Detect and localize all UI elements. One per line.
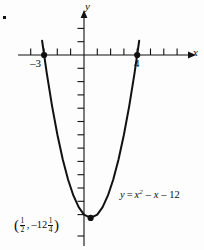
vertex-open-paren: ( [14,218,19,233]
equation-label: y=x2– x– 12 [120,190,180,201]
vertex-comma: , [27,220,30,231]
y-axis-ticks-positive [78,28,85,41]
equation-exponent: 2 [139,188,143,196]
equation-equals: = [127,189,133,200]
parabola-figure: x y –3 4 y=x2– x– 12 ( 1 2 , –12 1 4 ) [0,0,204,250]
y-axis-label: y [85,1,90,12]
vertex-close-paren: ) [54,218,59,233]
equation-term-minus-12: – 12 [161,189,179,200]
vertex-point [88,215,94,221]
x-axis-ticks [31,49,177,56]
equation-term-minus-x: – x [146,189,159,200]
plot-canvas [0,0,204,250]
equation-lhs: y [120,189,125,200]
root-label-right: 4 [134,58,140,69]
x-axis-label: x [193,47,198,58]
vertex-x-numerator: 1 [20,217,26,225]
vertex-y-fraction: 1 4 [48,217,54,234]
vertex-y-numerator: 1 [48,217,54,225]
vertex-x-denominator: 2 [20,225,26,234]
vertex-y-denominator: 4 [48,225,54,234]
vertex-x-fraction: 1 2 [20,217,26,234]
root-label-left: –3 [30,58,41,69]
vertex-y-whole: –12 [31,220,47,231]
root-point-left [41,52,47,58]
vertex-label: ( 1 2 , –12 1 4 ) [14,217,59,234]
